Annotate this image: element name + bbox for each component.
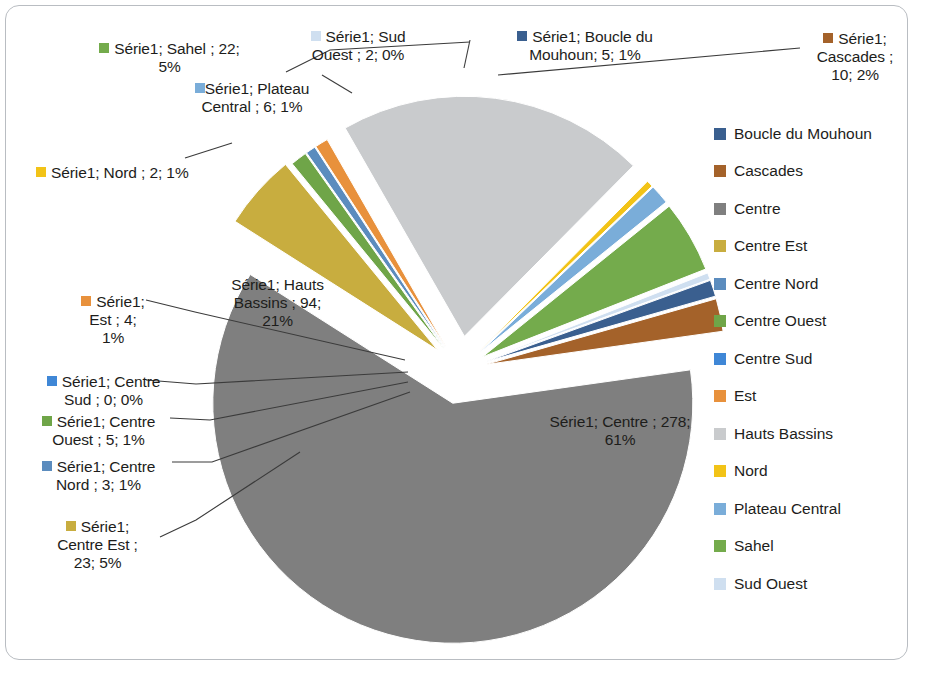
legend-item-label: Sud Ouest bbox=[734, 575, 807, 593]
legend-item-label: Hauts Bassins bbox=[734, 425, 833, 443]
data-label-text-boucle-du-mouhoun: Série1; Boucle du Mouhoun; 5; 1% bbox=[529, 28, 653, 63]
data-label-text-centre: Série1; Centre ; 278; 61% bbox=[550, 413, 691, 448]
data-label-plateau-central: Série1; Plateau Central ; 6; 1% bbox=[168, 62, 336, 116]
data-label-boucle-du-mouhoun: Série1; Boucle du Mouhoun; 5; 1% bbox=[480, 10, 690, 64]
data-label-swatch-nord bbox=[36, 167, 46, 177]
legend-item[interactable]: Centre Ouest bbox=[714, 303, 914, 341]
data-label-text-nord: Série1; Nord ; 2; 1% bbox=[51, 164, 189, 181]
legend-key-icon bbox=[714, 128, 726, 140]
data-label-text-est: Série1; Est ; 4; 1% bbox=[89, 293, 144, 346]
data-label-swatch-plateau-central bbox=[195, 83, 205, 93]
legend-item-label: Centre Sud bbox=[734, 350, 812, 368]
data-label-swatch-sud-ouest bbox=[311, 31, 321, 41]
data-label-centre: Série1; Centre ; 278; 61% bbox=[520, 395, 720, 449]
data-label-hauts-bassins: Série1; Hauts Bassins ; 94; 21% bbox=[205, 258, 350, 330]
legend-item[interactable]: Plateau Central bbox=[714, 490, 914, 528]
legend-item[interactable]: Centre Nord bbox=[714, 265, 914, 303]
legend-item[interactable]: Hauts Bassins bbox=[714, 415, 914, 453]
data-label-swatch-sahel bbox=[99, 43, 109, 53]
legend-key-icon bbox=[714, 578, 726, 590]
legend-item-label: Boucle du Mouhoun bbox=[734, 125, 872, 143]
legend-key-icon bbox=[714, 353, 726, 365]
legend-key-icon bbox=[714, 315, 726, 327]
data-label-centre-est: Série1; Centre Est ; 23; 5% bbox=[20, 500, 175, 572]
legend-item[interactable]: Centre Est bbox=[714, 228, 914, 266]
legend-item[interactable]: Centre Sud bbox=[714, 340, 914, 378]
data-label-text-hauts-bassins: Série1; Hauts Bassins ; 94; 21% bbox=[231, 276, 324, 329]
legend-item[interactable]: Nord bbox=[714, 453, 914, 491]
legend-item[interactable]: Boucle du Mouhoun bbox=[714, 115, 914, 153]
legend-key-icon bbox=[714, 428, 726, 440]
legend-key-icon bbox=[714, 203, 726, 215]
legend-item-label: Centre bbox=[734, 200, 781, 218]
legend-item[interactable]: Centre bbox=[714, 190, 914, 228]
legend-item-label: Nord bbox=[734, 462, 768, 480]
data-label-swatch-centre-nord bbox=[42, 461, 52, 471]
legend-key-icon bbox=[714, 165, 726, 177]
legend-item[interactable]: Est bbox=[714, 378, 914, 416]
data-label-text-sud-ouest: Série1; Sud Ouest ; 2; 0% bbox=[312, 28, 406, 63]
legend-key-icon bbox=[714, 240, 726, 252]
data-label-est: Série1; Est ; 4; 1% bbox=[58, 275, 168, 347]
leader-line-boucle-du-mouhoun bbox=[464, 40, 470, 68]
data-label-swatch-boucle-du-mouhoun bbox=[517, 31, 527, 41]
legend-key-icon bbox=[714, 390, 726, 402]
data-label-nord: Série1; Nord ; 2; 1% bbox=[36, 146, 246, 182]
legend-key-icon bbox=[714, 278, 726, 290]
data-label-swatch-est bbox=[81, 296, 91, 306]
legend-item-label: Centre Ouest bbox=[734, 312, 826, 330]
pie-slices-group bbox=[213, 96, 723, 643]
data-label-swatch-centre-est bbox=[66, 521, 76, 531]
legend-item-label: Centre Nord bbox=[734, 275, 818, 293]
data-label-swatch-centre-sud bbox=[47, 376, 57, 386]
legend-key-icon bbox=[714, 540, 726, 552]
legend-item[interactable]: Sahel bbox=[714, 528, 914, 566]
legend-item-label: Centre Est bbox=[734, 237, 807, 255]
legend-item-label: Plateau Central bbox=[734, 500, 841, 518]
legend-item[interactable]: Sud Ouest bbox=[714, 565, 914, 603]
legend-item-label: Est bbox=[734, 387, 756, 405]
legend-item-label: Sahel bbox=[734, 537, 774, 555]
data-label-swatch-cascades bbox=[823, 33, 833, 43]
data-label-sud-ouest: Série1; Sud Ouest ; 2; 0% bbox=[278, 10, 438, 64]
legend-item-label: Cascades bbox=[734, 162, 803, 180]
data-label-cascades: Série1; Cascades ; 10; 2% bbox=[790, 12, 920, 84]
legend-key-icon bbox=[714, 503, 726, 515]
legend-key-icon bbox=[714, 465, 726, 477]
chart-legend: Boucle du MouhounCascadesCentreCentre Es… bbox=[714, 115, 914, 603]
data-label-centre-nord: Série1; Centre Nord ; 3; 1% bbox=[16, 440, 181, 494]
data-label-text-plateau-central: Série1; Plateau Central ; 6; 1% bbox=[201, 80, 309, 115]
data-label-text-centre-nord: Série1; Centre Nord ; 3; 1% bbox=[56, 458, 155, 493]
pie-chart-figure: Série1; Sahel ; 22; 5% Série1; Sud Ouest… bbox=[0, 0, 926, 690]
data-label-swatch-centre-ouest bbox=[42, 416, 52, 426]
legend-item[interactable]: Cascades bbox=[714, 153, 914, 191]
